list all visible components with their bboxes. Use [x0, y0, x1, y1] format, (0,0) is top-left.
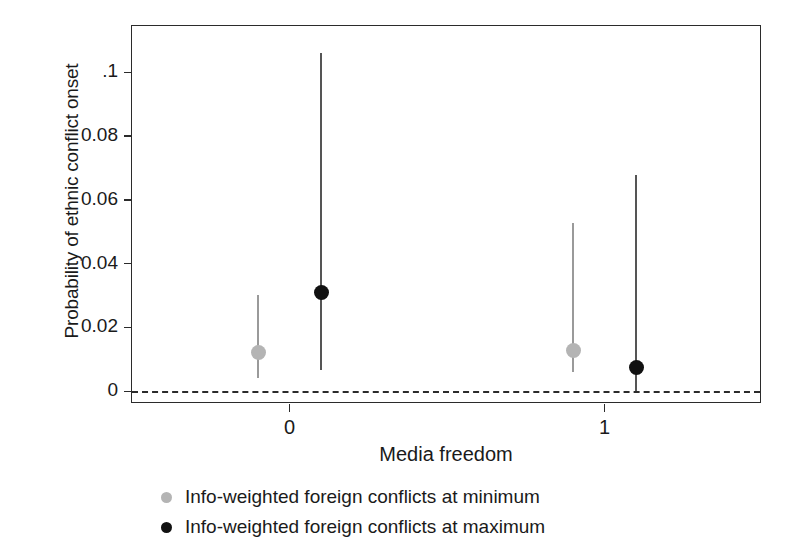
legend-item: Info-weighted foreign conflicts at maxim… [0, 512, 792, 542]
x-tick-mark [289, 404, 290, 412]
chart-figure: Probability of ethnic conflict onset 00.… [0, 0, 792, 555]
legend-item-inner: Info-weighted foreign conflicts at minim… [161, 486, 631, 508]
y-tick-mark [124, 263, 132, 264]
x-axis-title: Media freedom [131, 443, 761, 466]
data-point [251, 345, 266, 360]
plot-area: 00.020.040.060.08.1 01 [131, 25, 761, 403]
legend-label: Info-weighted foreign conflicts at maxim… [185, 516, 545, 538]
y-tick-label: 0 [107, 379, 118, 401]
y-tick-label: 0.06 [81, 188, 118, 210]
x-tick-mark [604, 404, 605, 412]
y-tick-label: 0.02 [81, 315, 118, 337]
legend-item: Info-weighted foreign conflicts at minim… [0, 482, 792, 512]
error-bar [257, 295, 259, 378]
y-tick-mark [124, 327, 132, 328]
x-tick-label: 1 [575, 416, 635, 439]
y-tick-mark [124, 391, 132, 392]
legend-marker-icon [161, 492, 172, 503]
error-bar [635, 175, 637, 391]
error-bar [320, 53, 322, 370]
data-point [314, 285, 329, 300]
y-tick-label: 0.08 [81, 124, 118, 146]
legend-marker-icon [161, 522, 172, 533]
y-tick-mark [124, 72, 132, 73]
y-tick-label: .1 [102, 60, 118, 82]
data-point [566, 343, 581, 358]
y-tick-mark [124, 135, 132, 136]
legend-label: Info-weighted foreign conflicts at minim… [185, 486, 540, 508]
data-point [629, 360, 644, 375]
x-tick-label: 0 [260, 416, 320, 439]
legend-item-inner: Info-weighted foreign conflicts at maxim… [161, 516, 631, 538]
y-tick-mark [124, 199, 132, 200]
y-tick-label: 0.04 [81, 252, 118, 274]
zero-reference-line [132, 391, 760, 393]
chart-legend: Info-weighted foreign conflicts at minim… [0, 482, 792, 542]
y-axis-title: Probability of ethnic conflict onset [61, 11, 83, 391]
